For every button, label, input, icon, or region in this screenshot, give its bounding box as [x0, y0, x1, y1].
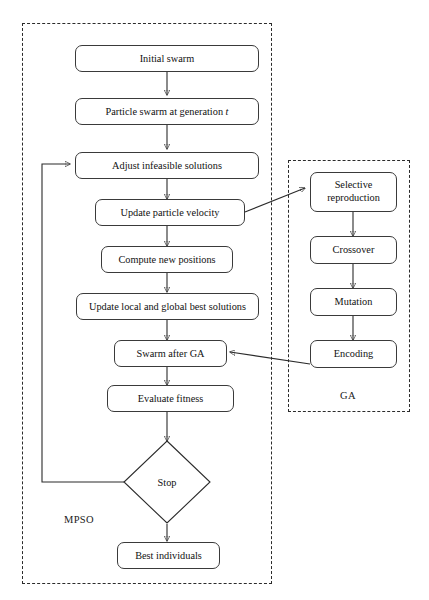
node-stop-label: Stop [124, 441, 210, 523]
node-update-velocity[interactable]: Update particle velocity [95, 199, 245, 226]
node-crossover[interactable]: Crossover [310, 236, 397, 264]
group-label-ga: GA [340, 390, 356, 401]
node-encoding[interactable]: Encoding [310, 340, 397, 368]
node-initial-swarm[interactable]: Initial swarm [75, 45, 259, 72]
group-label-mpso: MPSO [64, 514, 94, 525]
node-selective-reproduction-line1: Selective [335, 179, 373, 192]
node-swarm-after-ga[interactable]: Swarm after GA [114, 340, 227, 367]
node-particle-swarm-generation-label: Particle swarm at generation t [106, 106, 229, 118]
node-stop[interactable]: Stop [124, 441, 210, 523]
node-best-individuals[interactable]: Best individuals [117, 542, 220, 569]
node-compute-positions[interactable]: Compute new positions [101, 246, 233, 273]
flowchart-canvas: MPSO GA Initial swarm Par [0, 0, 429, 600]
node-evaluate-fitness[interactable]: Evaluate fitness [107, 385, 234, 412]
node-selective-reproduction-line2: reproduction [327, 192, 380, 205]
node-selective-reproduction[interactable]: Selective reproduction [310, 172, 397, 212]
node-adjust-infeasible[interactable]: Adjust infeasible solutions [75, 152, 259, 179]
node-update-best[interactable]: Update local and global best solutions [76, 293, 259, 320]
node-particle-swarm-generation[interactable]: Particle swarm at generation t [75, 98, 259, 125]
node-mutation[interactable]: Mutation [310, 288, 397, 316]
